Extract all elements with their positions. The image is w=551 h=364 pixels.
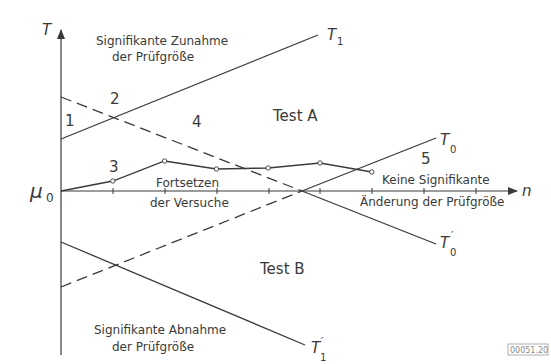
label-t0-sub: 0: [450, 144, 456, 155]
label-t1: T 1: [327, 26, 343, 47]
label-t0: T 0: [440, 131, 456, 155]
origin-label: μ: [29, 179, 43, 203]
region-1: 1: [65, 112, 75, 130]
test-b-label: Test B: [259, 260, 305, 278]
sequential-test-diagram: T n μ 0 T 1 T 0 T 0 ′ T 1 ′ 1 2 3 4 5 Si…: [0, 0, 551, 364]
sample-point: [370, 170, 374, 174]
no-change-text-line1: Keine Signifikante: [382, 173, 490, 187]
label-t1-prime: T 1 ′: [311, 335, 326, 363]
increase-text-line2: der Prüfgröße: [112, 50, 194, 64]
decrease-text-line1: Signifikante Abnahme: [94, 323, 226, 337]
y-axis-label: T: [42, 21, 53, 39]
region-5: 5: [421, 150, 431, 168]
region-3: 3: [109, 158, 119, 176]
decrease-text-line2: der Prüfgröße: [112, 340, 194, 354]
no-change-text-line2: Änderung der Prüfgröße: [360, 194, 505, 209]
sample-point: [162, 159, 166, 163]
label-t1-sub: 1: [337, 36, 343, 47]
figure-id: 00051.20: [510, 346, 548, 355]
region-2: 2: [110, 90, 120, 108]
sample-point: [266, 166, 270, 170]
continue-text-line1: Fortsetzen: [156, 176, 219, 190]
label-t0-prime-sub: 0: [450, 247, 456, 258]
continue-text-line2: der Versuche: [150, 196, 229, 210]
increase-text-line1: Signifikante Zunahme: [96, 34, 228, 48]
origin-label-subscript: 0: [46, 191, 54, 205]
test-a-label: Test A: [272, 107, 318, 125]
label-t0-prime: T 0 ′: [440, 229, 456, 258]
region-4: 4: [192, 113, 202, 131]
label-t1-prime-mark: ′: [321, 335, 324, 348]
sample-point: [111, 179, 115, 183]
sample-point: [318, 161, 322, 165]
label-t1-prime-sub: 1: [320, 352, 326, 363]
sample-point: [214, 167, 218, 171]
x-axis-label: n: [522, 182, 532, 200]
label-t0-prime-mark: ′: [451, 229, 454, 242]
